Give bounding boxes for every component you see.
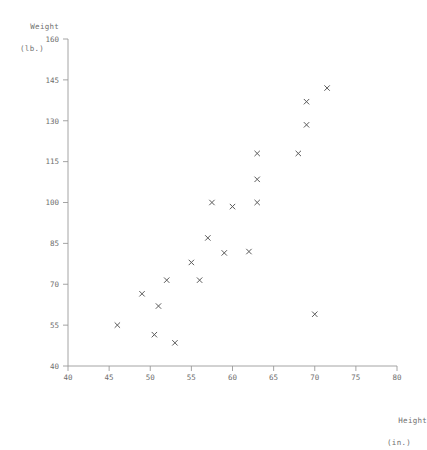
- y-axis-tick-label: 115: [45, 157, 59, 166]
- data-point-marker: [254, 151, 259, 156]
- data-point-marker: [164, 277, 169, 282]
- data-point-marker: [156, 303, 161, 308]
- x-axis-tick-label: 70: [310, 373, 320, 382]
- x-axis-tick-label: 40: [63, 373, 73, 382]
- data-point-marker: [254, 177, 259, 182]
- data-point-marker: [312, 312, 317, 317]
- data-point-marker: [115, 322, 120, 327]
- x-axis-tick-label: 65: [269, 373, 278, 382]
- data-point-marker: [139, 291, 144, 296]
- x-axis-tick-label: 80: [392, 373, 402, 382]
- y-axis-tick-label: 145: [45, 76, 59, 85]
- x-axis: 404550556065707580: [63, 366, 402, 382]
- data-point-marker: [205, 235, 210, 240]
- data-point-marker: [152, 332, 157, 337]
- y-axis-tick-label: 85: [50, 239, 59, 248]
- x-axis-tick-label: 55: [187, 373, 196, 382]
- x-axis-tick-label: 75: [351, 373, 360, 382]
- data-point-marker: [254, 200, 259, 205]
- y-axis-tick-label: 55: [50, 321, 59, 330]
- y-axis-tick-label: 70: [50, 280, 60, 289]
- y-axis-tick-label: 100: [45, 198, 59, 207]
- data-point-marker: [172, 340, 177, 345]
- data-points-layer: [115, 85, 330, 345]
- y-axis-tick-label: 160: [45, 35, 59, 44]
- data-point-marker: [324, 85, 329, 90]
- x-axis-label-units: (in.): [379, 437, 427, 448]
- data-point-marker: [222, 250, 227, 255]
- y-axis-tick-label: 40: [50, 362, 60, 371]
- data-point-marker: [296, 151, 301, 156]
- x-axis-tick-label: 50: [146, 373, 156, 382]
- y-axis: 40557085100115130145160: [45, 35, 68, 371]
- y-axis-tick-label: 130: [45, 117, 59, 126]
- data-point-marker: [197, 277, 202, 282]
- x-axis-tick-label: 60: [228, 373, 238, 382]
- data-point-marker: [209, 200, 214, 205]
- data-point-marker: [246, 249, 251, 254]
- data-point-marker: [230, 204, 235, 209]
- data-point-marker: [304, 122, 309, 127]
- data-point-marker: [189, 260, 194, 265]
- x-axis-tick-label: 45: [105, 373, 114, 382]
- data-point-marker: [304, 99, 309, 104]
